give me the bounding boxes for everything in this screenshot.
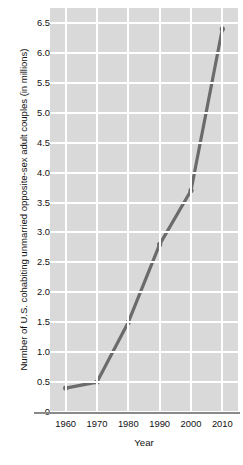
gridline-horizontal: [50, 52, 238, 54]
gridline-horizontal: [50, 22, 238, 24]
gridline-horizontal: [50, 142, 238, 144]
line-chart-figure: Number of U.S. cohabiting unmarried oppo…: [0, 0, 243, 465]
x-tick-label: 2010: [202, 418, 242, 429]
y-tick-label: 5.5: [10, 78, 50, 88]
gridline-horizontal: [50, 112, 238, 114]
gridline-horizontal: [50, 321, 238, 323]
gridline-horizontal: [50, 381, 238, 383]
y-tick-label: 4.5: [10, 138, 50, 148]
gridline-horizontal: [50, 291, 238, 293]
y-tick-label: 3.5: [10, 198, 50, 208]
plot-area: [50, 8, 238, 412]
y-tick-label: 2.0: [10, 287, 50, 297]
y-tick-label: 5.0: [10, 108, 50, 118]
y-tick-label: 2.5: [10, 257, 50, 267]
y-tick-label: 1.5: [10, 317, 50, 327]
gridline-vertical: [96, 8, 98, 412]
gridline-vertical: [65, 8, 67, 412]
gridline-horizontal: [50, 231, 238, 233]
gridline-vertical: [127, 8, 129, 412]
y-tick-label: 0.5: [10, 377, 50, 387]
y-tick-label: 1.0: [10, 347, 50, 357]
y-tick-label: 4.0: [10, 168, 50, 178]
y-tick-label: 3.0: [10, 227, 50, 237]
gridline-vertical: [190, 8, 192, 412]
gridline-horizontal: [50, 261, 238, 263]
x-axis-line: [34, 412, 240, 414]
x-axis-title: Year: [50, 437, 238, 448]
y-axis-title: Number of U.S. cohabiting unmarried oppo…: [18, 15, 29, 405]
gridline-vertical: [221, 8, 223, 412]
gridline-horizontal: [50, 82, 238, 84]
gridline-horizontal: [50, 351, 238, 353]
gridline-horizontal: [50, 202, 238, 204]
y-tick-label: 6.0: [10, 48, 50, 58]
gridline-horizontal: [50, 172, 238, 174]
y-tick-label: 6.5: [10, 18, 50, 28]
gridline-vertical: [159, 8, 161, 412]
